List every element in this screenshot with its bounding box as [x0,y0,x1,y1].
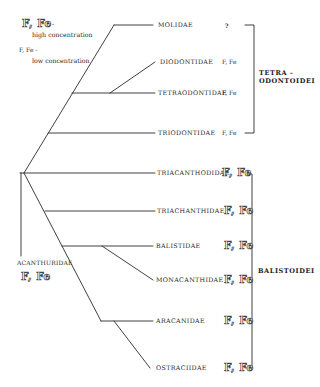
group-label-tetraodontoidei-line1: TETRA - [259,69,315,77]
branch-diodontidae [110,62,155,93]
legend-low-text: low concentration [32,58,90,64]
branch-root-to-ostraciid-node [24,173,101,321]
taxon-value-diodontidae: F, Fe [222,59,236,65]
taxon-label-molidae: MOLIDAE [158,22,193,28]
legend-high-symbol: F, Fe [22,18,52,29]
taxon-label-triachanthidae: TRIACHANTHIDAE [157,208,225,214]
group-label-tetraodontoidei-line2: ODONTOIDEI [259,77,315,85]
taxon-value-triachanthidae: F, Fe [224,205,254,216]
group-label-balistoidei: BALISTOIDEI [258,267,315,275]
taxon-label-balistidae: BALISTIDAE [156,243,201,249]
taxon-label-aracanidae: ARACANIDAE [156,318,205,324]
outgroup-value-acanthuridae: F, Fe [21,271,51,282]
taxon-value-monacanthidae: F, Fe [224,274,254,285]
group-label-tetraodontoidei: TETRA - ODONTOIDEI [259,69,315,85]
outgroup-label-acanthuridae: ACANTHURIDAE [17,260,73,266]
taxon-value-molidae: ? [225,23,229,29]
taxon-value-triodontidae: F, Fe [222,130,236,136]
legend-high-dash: - [52,21,54,27]
taxon-label-tetraodontidae: TETRAODONTIDAE [158,90,227,96]
taxon-value-balistidae: F, Fe [224,240,254,251]
bracket-tetraodontoidei [245,25,254,133]
legend-low-symbol: F, Fe - [19,47,37,53]
taxon-value-tetraodontidae: F, Fe [222,90,236,96]
taxon-label-triacanthodidae: TRIACANTHODIDAE [157,170,230,176]
taxon-value-aracanidae: F, Fe [224,315,254,326]
branch-root-to-molidae [24,25,114,173]
legend-high-text: high concentration [32,32,93,38]
taxon-label-monacanthidae: MONACANTHIDAE [156,277,223,283]
taxon-label-triodontidae: TRIODONTIDAE [158,130,215,136]
taxon-label-ostraciidae: OSTRACIIDAE [156,365,207,371]
taxon-label-diodontidae: DIODONTIDAE [160,59,213,65]
taxon-value-ostraciidae: F, Fe [224,362,254,373]
branch-monacanthidae [102,246,153,280]
branch-ostraciidae [114,321,150,368]
taxon-value-triacanthodidae: F, Fe [222,167,252,178]
